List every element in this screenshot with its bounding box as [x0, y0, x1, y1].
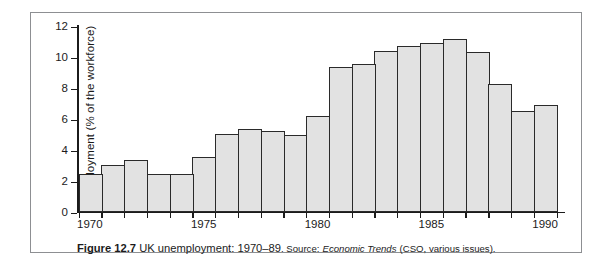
- y-tick-mark: [71, 182, 77, 183]
- y-tick-label: 6: [62, 114, 68, 126]
- plot-area: 024681012: [77, 25, 557, 213]
- bars-layer: [79, 26, 557, 212]
- x-tick-label: 1980: [305, 219, 331, 231]
- bar: [101, 165, 125, 212]
- x-tick-label: 1985: [419, 219, 445, 231]
- y-tick-label: 0: [62, 207, 68, 219]
- x-tick-mark: [488, 213, 489, 218]
- bar: [147, 174, 171, 211]
- bar: [511, 111, 535, 212]
- x-tick-label: 1975: [191, 219, 217, 231]
- y-tick-mark: [71, 27, 77, 28]
- y-tick-mark: [71, 89, 77, 90]
- x-tick-mark: [465, 213, 466, 218]
- x-tick-mark: [147, 213, 148, 218]
- y-tick-mark: [71, 120, 77, 121]
- x-tick-mark: [352, 213, 353, 218]
- caption-source-label: . Source:: [281, 243, 319, 254]
- figure-root: Unemployment (% of the workforce) 024681…: [0, 0, 612, 264]
- y-tick-label: 12: [55, 21, 68, 33]
- caption-source-rest: (CSO, various issues).: [400, 243, 496, 254]
- bar: [534, 105, 558, 211]
- bar: [374, 51, 398, 211]
- x-tick-mark: [238, 213, 239, 218]
- x-tick-mark: [170, 213, 171, 218]
- bar: [261, 131, 285, 212]
- x-tick-mark: [511, 213, 512, 218]
- x-axis-ticks: 19701975198019851990: [77, 213, 557, 239]
- bar: [488, 84, 512, 212]
- figure-caption: Figure 12.7 UK unemployment: 1970–89. So…: [77, 241, 577, 255]
- bar: [420, 43, 444, 211]
- caption-source-title: Economic Trends: [323, 243, 397, 254]
- y-tick-label: 10: [55, 52, 68, 64]
- bar: [124, 160, 148, 211]
- bar: [397, 46, 421, 211]
- bar: [238, 129, 262, 211]
- bar: [329, 67, 353, 212]
- caption-figure-number: Figure 12.7: [77, 242, 136, 254]
- caption-title: UK unemployment: 1970–89: [139, 242, 281, 254]
- bar: [443, 39, 467, 211]
- x-tick-label: 1970: [77, 219, 103, 231]
- x-tick-label: 1990: [532, 219, 558, 231]
- x-tick-mark: [261, 213, 262, 218]
- y-tick-mark: [71, 151, 77, 152]
- y-tick-label: 4: [62, 145, 68, 157]
- y-tick-mark: [71, 58, 77, 59]
- bar: [170, 174, 194, 211]
- bar: [192, 157, 216, 211]
- bar: [306, 116, 330, 211]
- y-tick-label: 2: [62, 176, 68, 188]
- x-tick-mark: [124, 213, 125, 218]
- bar: [283, 135, 307, 212]
- y-tick-label: 8: [62, 83, 68, 95]
- bar: [465, 52, 489, 212]
- x-tick-mark: [397, 213, 398, 218]
- figure-frame: Unemployment (% of the workforce) 024681…: [30, 12, 582, 253]
- bar: [215, 134, 239, 212]
- x-tick-mark: [283, 213, 284, 218]
- x-tick-mark: [374, 213, 375, 218]
- bar: [352, 64, 376, 211]
- bar: [79, 174, 103, 212]
